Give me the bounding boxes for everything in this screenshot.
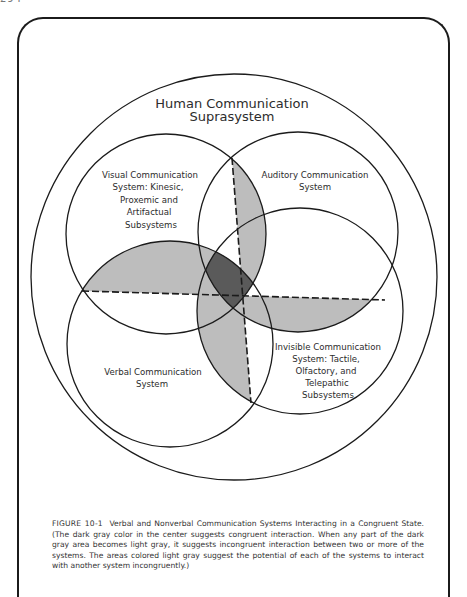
svg-text:Verbal Communication: Verbal Communication: [104, 367, 202, 377]
auditory-system-label: Auditory Communication System: [262, 170, 369, 192]
figure-caption: FIGURE 10-1 Verbal and Nonverbal Communi…: [52, 519, 424, 572]
svg-text:System: System: [136, 379, 168, 389]
svg-text:Subsystems: Subsystems: [125, 220, 177, 230]
svg-text:Proxemic and: Proxemic and: [120, 195, 178, 205]
svg-text:Olfactory, and: Olfactory, and: [295, 366, 356, 376]
svg-text:Auditory Communication: Auditory Communication: [262, 170, 369, 180]
svg-text:Telepathic: Telepathic: [304, 378, 349, 388]
svg-text:Visual Communication: Visual Communication: [102, 170, 198, 180]
verbal-system-label: Verbal Communication System: [104, 367, 202, 389]
svg-text:Invisible Communication: Invisible Communication: [275, 342, 381, 352]
figure-label: FIGURE 10-1: [52, 519, 103, 528]
visual-system-label: Visual Communication System: Kinesic, Pr…: [102, 170, 198, 230]
svg-text:Artifactual: Artifactual: [127, 207, 172, 217]
caption-text: Verbal and Nonverbal Communication Syste…: [52, 519, 424, 570]
svg-text:System: Kinesic,: System: Kinesic,: [113, 182, 184, 192]
suprasystem-subtitle: Suprasystem: [189, 109, 274, 124]
svg-text:System: Tactile,: System: Tactile,: [292, 354, 360, 364]
svg-text:System: System: [299, 182, 331, 192]
svg-text:Subsystems: Subsystems: [302, 390, 354, 400]
